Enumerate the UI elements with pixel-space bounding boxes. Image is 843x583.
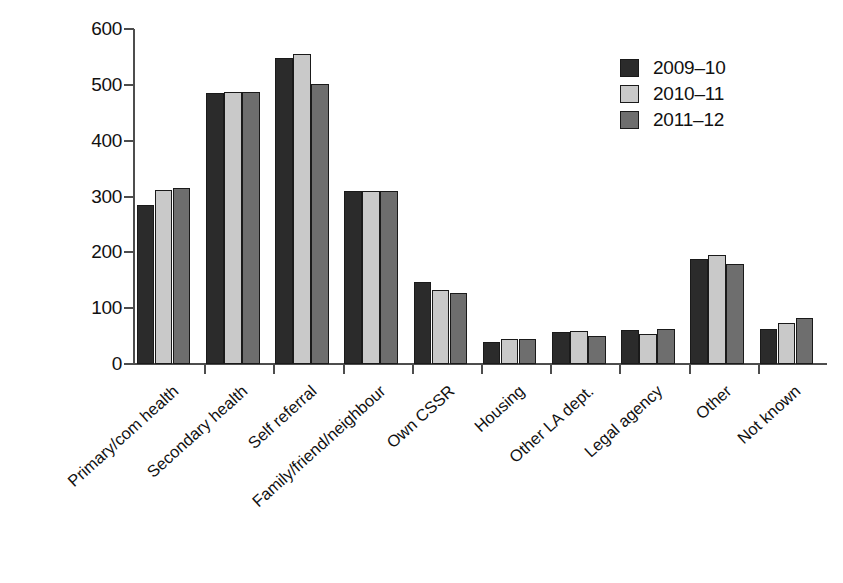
y-axis-tick-label: 500 (50, 75, 122, 94)
bar (224, 92, 242, 364)
legend-swatch-icon (620, 59, 639, 77)
bar-group (760, 29, 814, 364)
y-axis-tick (124, 307, 134, 309)
x-axis-tick (273, 364, 275, 374)
bar-group (483, 29, 537, 364)
legend-label: 2011–12 (653, 110, 724, 129)
bar (483, 342, 501, 364)
x-axis-category-label: Primary/com health (0, 382, 181, 583)
bar (311, 84, 329, 364)
bar (362, 191, 380, 364)
bar-group (206, 29, 260, 364)
bar (206, 93, 224, 364)
y-axis-tick (124, 196, 134, 198)
bar (657, 329, 675, 364)
bar (432, 290, 450, 364)
bar (778, 323, 796, 364)
bar (552, 332, 570, 364)
bar (796, 318, 814, 364)
legend-item: 2010–11 (620, 82, 726, 105)
x-axis-tick (619, 364, 621, 374)
bar (275, 58, 293, 364)
x-axis-tick (481, 364, 483, 374)
legend-swatch-icon (620, 111, 639, 129)
y-axis-tick-label: 100 (50, 298, 122, 317)
x-axis-tick (343, 364, 345, 374)
bar (690, 259, 708, 364)
y-axis-tick-label: 0 (50, 354, 122, 373)
bar (588, 336, 606, 364)
legend-item: 2011–12 (620, 108, 726, 131)
bar (519, 339, 537, 364)
y-axis-tick-label: 200 (50, 242, 122, 261)
bar (501, 339, 519, 364)
bar (242, 92, 260, 364)
bar (450, 293, 468, 364)
bar (173, 188, 191, 364)
bar (639, 334, 657, 364)
legend-label: 2010–11 (653, 84, 724, 103)
bar (570, 331, 588, 364)
bar (137, 205, 155, 364)
bar (760, 329, 778, 364)
y-axis-tick-label: 600 (50, 19, 122, 38)
y-axis-tick (124, 84, 134, 86)
bar-group (414, 29, 468, 364)
legend: 2009–102010–112011–12 (620, 56, 726, 134)
x-axis-tick (550, 364, 552, 374)
y-axis-tick (124, 363, 134, 365)
x-axis-tick (412, 364, 414, 374)
y-axis-tick (124, 251, 134, 253)
legend-label: 2009–10 (653, 58, 726, 77)
y-axis-tick-label: 300 (50, 187, 122, 206)
bar (380, 191, 398, 364)
y-axis-tick-label: 400 (50, 131, 122, 150)
bar-group (137, 29, 191, 364)
bar (708, 255, 726, 364)
bar (344, 191, 362, 364)
x-axis-tick (689, 364, 691, 374)
y-axis-tick (124, 28, 134, 30)
bar-group (552, 29, 606, 364)
legend-item: 2009–10 (620, 56, 726, 79)
bar (155, 190, 173, 364)
bar (414, 282, 432, 364)
x-axis-tick (204, 364, 206, 374)
bar-group (275, 29, 329, 364)
bar (726, 264, 744, 365)
bar (621, 330, 639, 364)
legend-swatch-icon (620, 85, 639, 103)
bar-group (344, 29, 398, 364)
y-axis-tick (124, 140, 134, 142)
bar (293, 54, 311, 364)
x-axis-tick (758, 364, 760, 374)
bar-chart: 6005004003002001000 Primary/com healthSe… (0, 0, 843, 583)
